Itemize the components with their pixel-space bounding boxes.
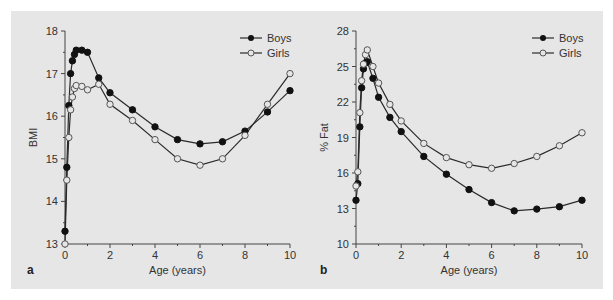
- y-tick-label: 18: [46, 25, 58, 37]
- marker-boys: [370, 75, 376, 81]
- y-tick-label: 28: [337, 25, 349, 37]
- marker-girls: [360, 61, 366, 67]
- marker-girls: [152, 136, 158, 142]
- marker-boys: [534, 206, 540, 212]
- marker-girls: [370, 63, 376, 69]
- marker-girls: [357, 109, 363, 115]
- legend: BoysGirls: [240, 32, 292, 59]
- marker-boys: [129, 107, 135, 113]
- marker-girls: [355, 169, 361, 175]
- marker-girls: [556, 143, 562, 149]
- marker-girls: [197, 162, 203, 168]
- y-tick-label: 17: [46, 68, 58, 80]
- x-tick-label: 4: [152, 249, 158, 261]
- legend-label-boys: Boys: [267, 32, 292, 44]
- marker-boys: [387, 114, 393, 120]
- open-circle-icon: [540, 50, 546, 56]
- marker-girls: [511, 160, 517, 166]
- marker-girls: [107, 101, 113, 107]
- x-tick-label: 10: [576, 249, 588, 261]
- y-tick-label: 13: [46, 238, 58, 250]
- marker-boys: [64, 164, 70, 170]
- marker-girls: [242, 132, 248, 138]
- y-tick-label: 19: [337, 132, 349, 144]
- marker-girls: [174, 156, 180, 162]
- y-tick-label: 15: [46, 153, 58, 165]
- x-tick-label: 4: [443, 249, 449, 261]
- x-tick-label: 10: [284, 249, 296, 261]
- marker-boys: [174, 136, 180, 142]
- y-tick-label: 25: [337, 61, 349, 73]
- y-tick-label: 22: [337, 96, 349, 108]
- marker-boys: [358, 85, 364, 91]
- marker-boys: [62, 228, 68, 234]
- legend-label-girls: Girls: [559, 47, 582, 59]
- marker-girls: [287, 70, 293, 76]
- x-tick-label: 0: [62, 249, 68, 261]
- x-tick-label: 6: [489, 249, 495, 261]
- marker-boys: [466, 186, 472, 192]
- marker-boys: [219, 139, 225, 145]
- marker-girls: [69, 94, 75, 100]
- marker-girls: [443, 154, 449, 160]
- marker-girls: [219, 156, 225, 162]
- marker-boys: [84, 49, 90, 55]
- marker-girls: [66, 134, 72, 140]
- marker-girls: [353, 183, 359, 189]
- marker-boys: [197, 141, 203, 147]
- marker-girls: [534, 153, 540, 159]
- marker-boys: [556, 204, 562, 210]
- marker-boys: [443, 171, 449, 177]
- filled-circle-icon: [248, 35, 254, 41]
- x-tick-label: 8: [534, 249, 540, 261]
- marker-boys: [511, 208, 517, 214]
- marker-girls: [364, 47, 370, 53]
- y-tick-label: 16: [46, 110, 58, 122]
- marker-boys: [488, 199, 494, 205]
- marker-boys: [96, 75, 102, 81]
- marker-girls: [398, 118, 404, 124]
- marker-boys: [357, 124, 363, 130]
- x-tick-label: 0: [353, 249, 359, 261]
- marker-boys: [375, 94, 381, 100]
- marker-girls: [466, 162, 472, 168]
- figure-svg: 0246810131415161718Age (years)BMIaBoysGi…: [0, 0, 613, 300]
- marker-girls: [375, 80, 381, 86]
- marker-girls: [67, 107, 73, 113]
- chart-a-bmi: 0246810131415161718Age (years)BMIaBoysGi…: [27, 25, 296, 277]
- marker-girls: [129, 117, 135, 123]
- marker-girls: [358, 78, 364, 84]
- marker-girls: [421, 140, 427, 146]
- marker-boys: [69, 58, 75, 64]
- x-axis-title: Age (years): [149, 264, 206, 276]
- marker-girls: [488, 165, 494, 171]
- y-tick-label: 13: [337, 203, 349, 215]
- chart-b-percent-fat: 024681010131619222528Age (years)% FatbBo…: [318, 25, 588, 277]
- marker-girls: [387, 101, 393, 107]
- panel-letter: a: [27, 263, 34, 277]
- y-axis-title: BMI: [27, 128, 39, 148]
- marker-girls: [84, 87, 90, 93]
- legend: BoysGirls: [532, 32, 584, 59]
- marker-girls: [579, 130, 585, 136]
- open-circle-icon: [248, 50, 254, 56]
- y-axis-title: % Fat: [318, 123, 330, 152]
- marker-boys: [287, 87, 293, 93]
- marker-boys: [107, 90, 113, 96]
- marker-girls: [62, 241, 68, 247]
- marker-boys: [398, 128, 404, 134]
- marker-girls: [96, 81, 102, 87]
- panel-letter: b: [320, 263, 327, 277]
- x-tick-label: 6: [197, 249, 203, 261]
- marker-boys: [152, 124, 158, 130]
- marker-boys: [67, 70, 73, 76]
- legend-label-girls: Girls: [267, 47, 290, 59]
- marker-boys: [264, 109, 270, 115]
- x-tick-label: 8: [242, 249, 248, 261]
- marker-boys: [579, 197, 585, 203]
- x-axis-title: Age (years): [441, 264, 498, 276]
- y-tick-label: 10: [337, 238, 349, 250]
- marker-girls: [264, 101, 270, 107]
- marker-boys: [353, 197, 359, 203]
- marker-boys: [421, 153, 427, 159]
